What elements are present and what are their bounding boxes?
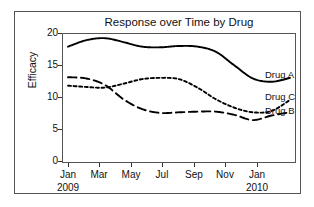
page-title: Response over Time by Drug xyxy=(62,16,296,28)
y-tick-label: 20 xyxy=(28,27,58,38)
y-tick-label: 15 xyxy=(28,59,58,70)
x-tick-mark xyxy=(225,163,226,167)
chart-figure: Response over Time by Drug Efficacy 20 1… xyxy=(0,0,314,207)
x-tick-mark xyxy=(162,163,163,167)
series-label-drug-b: Drug B xyxy=(265,105,295,116)
x-tick-mark xyxy=(68,163,69,167)
y-tick-label: 0 xyxy=(28,155,58,166)
x-tick-mark xyxy=(99,163,100,167)
series-label-drug-a: Drug A xyxy=(265,69,294,80)
x-tick-mark xyxy=(257,163,258,167)
y-tick-label: 5 xyxy=(28,123,58,134)
series-label-drug-c: Drug C xyxy=(265,91,295,102)
x-tick-mark xyxy=(194,163,195,167)
series-line-drug-a xyxy=(68,38,290,82)
plot-lines xyxy=(62,33,296,163)
y-tick-label: 10 xyxy=(28,91,58,102)
x-tick-label: Jan xyxy=(235,169,279,180)
x-year-label: 2009 xyxy=(46,182,90,193)
x-tick-mark xyxy=(131,163,132,167)
series-line-drug-b xyxy=(68,77,290,120)
x-year-label: 2010 xyxy=(235,182,279,193)
